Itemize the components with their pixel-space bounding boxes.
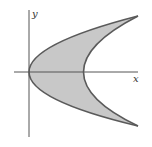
parabola-region-diagram: y x bbox=[0, 0, 152, 147]
y-axis-label: y bbox=[31, 8, 38, 19]
x-axis-label: x bbox=[133, 73, 139, 84]
